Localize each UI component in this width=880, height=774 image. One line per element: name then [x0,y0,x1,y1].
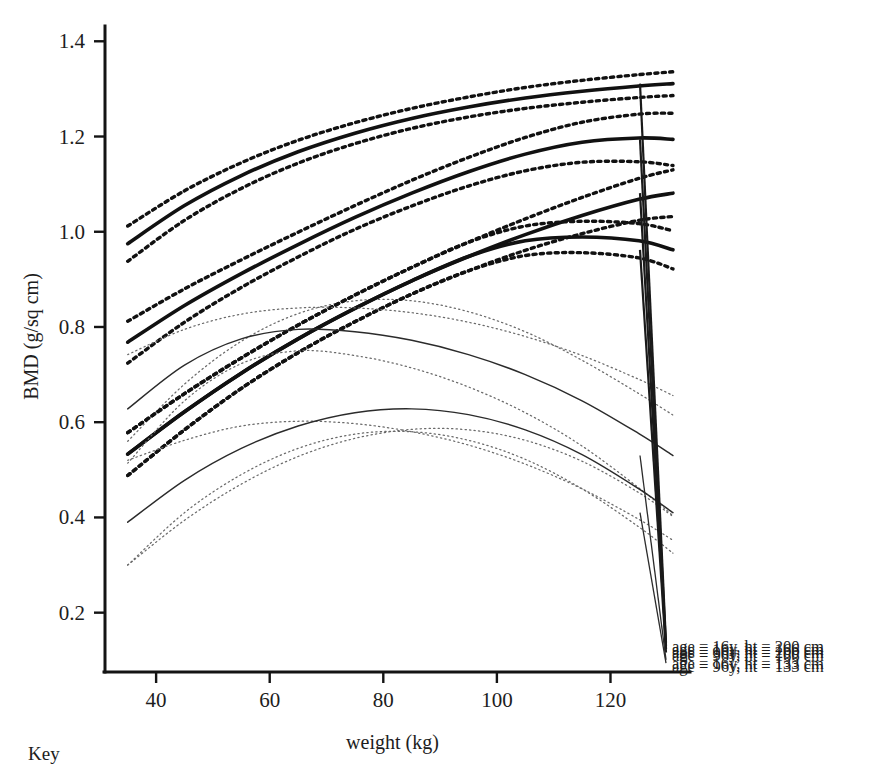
y-axis-title: BMD (g/sq cm) [20,273,43,400]
series-leader-line-3 [640,250,666,653]
confidence-band-curve [128,299,673,441]
y-tick-label: 0.4 [59,505,86,529]
y-axis-ticks: 0.20.40.60.81.01.21.4 [59,29,105,624]
x-tick-label: 100 [481,688,513,712]
y-tick-label: 1.4 [59,29,86,53]
key-label: Key [28,743,60,764]
x-tick-label: 80 [373,688,394,712]
y-tick-label: 0.8 [59,315,85,339]
curves-layer [128,72,673,565]
y-tick-label: 1.2 [59,125,85,149]
x-tick-label: 60 [259,688,280,712]
mean-curve-3 [128,237,673,454]
x-tick-label: 40 [146,688,167,712]
bmd-weight-chart: 0.20.40.60.81.01.21.4 406080100120 age =… [0,0,880,774]
x-axis-ticks: 406080100120 [146,672,627,712]
figure-container: 0.20.40.60.81.01.21.4 406080100120 age =… [0,0,880,774]
x-tick-label: 120 [595,688,627,712]
x-axis-title: weight (kg) [346,731,439,754]
mean-curve-0 [128,84,673,244]
y-tick-label: 0.6 [59,410,85,434]
y-tick-label: 0.2 [59,601,85,625]
confidence-upper-curve-0 [128,72,673,226]
confidence-upper-curve-5 [128,421,673,540]
confidence-lower-curve-2 [128,217,673,476]
series-label-5: age = 96y, ht = 133 cm [672,657,824,676]
y-tick-label: 1.0 [59,220,85,244]
confidence-band-curve [128,431,673,565]
confidence-lower-curve-5 [128,428,673,565]
